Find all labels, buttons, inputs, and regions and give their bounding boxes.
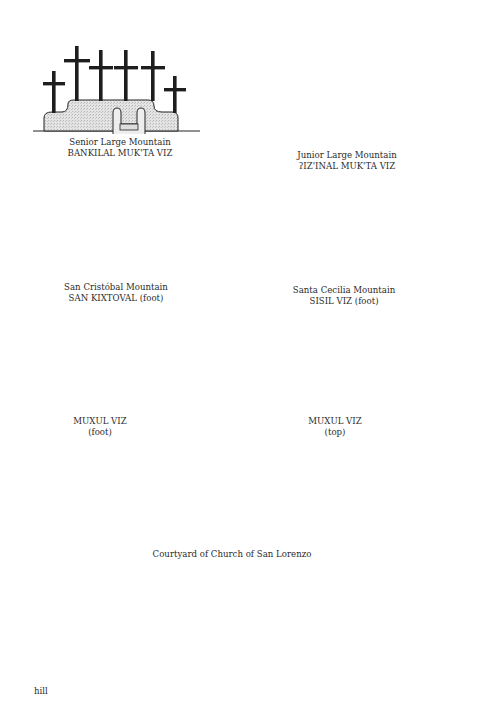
shrine-diagram (0, 0, 480, 703)
caption-muxul-viz-foot: MUXUL VIZ (foot) (50, 416, 150, 438)
caption-line1: MUXUL VIZ (285, 416, 385, 427)
panel-senior-large-mountain (33, 46, 200, 134)
caption-junior-large-mountain: Junior Large Mountain ʔIZ'INAL MUK'TA VI… (262, 150, 432, 172)
caption-line2: SAN KIXTOVAL (foot) (36, 293, 196, 304)
caption-line1: Santa Cecilia Mountain (264, 285, 424, 296)
caption-santa-cecilia-mountain: Santa Cecilia Mountain SISIL VIZ (foot) (264, 285, 424, 307)
caption-church-courtyard: Courtyard of Church of San Lorenzo (142, 549, 322, 560)
caption-line1: Junior Large Mountain (262, 150, 432, 161)
caption-muxul-viz-top: MUXUL VIZ (top) (285, 416, 385, 438)
caption-line2: BANKILAL MUK'TA VIZ (40, 148, 200, 159)
caption-san-cristobal-mountain: San Cristóbal Mountain SAN KIXTOVAL (foo… (36, 282, 196, 304)
caption-senior-large-mountain: Senior Large Mountain BANKILAL MUK'TA VI… (40, 137, 200, 159)
caption-line2: (foot) (50, 427, 150, 438)
caption-line2: ʔIZ'INAL MUK'TA VIZ (262, 161, 432, 172)
caption-line1: Courtyard of Church of San Lorenzo (142, 549, 322, 560)
caption-line2: (top) (285, 427, 385, 438)
caption-line1: San Cristóbal Mountain (36, 282, 196, 293)
hill-label: hill (34, 686, 54, 697)
caption-line1: MUXUL VIZ (50, 416, 150, 427)
caption-line2: SISIL VIZ (foot) (264, 296, 424, 307)
caption-line1: Senior Large Mountain (40, 137, 200, 148)
